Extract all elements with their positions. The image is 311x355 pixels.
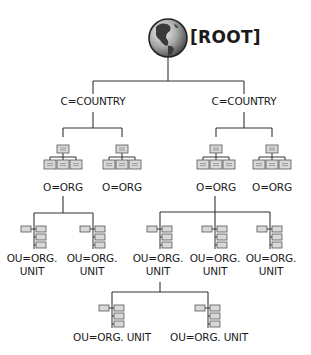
org-unit-label: OU=ORG. UNIT [246, 252, 296, 278]
tree-diagram [0, 0, 311, 355]
org-unit-icon [257, 226, 282, 249]
org-unit-label: OU=ORG. UNIT [133, 252, 183, 278]
country-label: C=COUNTRY [212, 95, 277, 108]
org-unit-label: OU=ORG. UNIT [7, 252, 57, 278]
org-label: O=ORG [252, 181, 292, 194]
globe-icon [149, 19, 187, 57]
org-unit-label: OU=ORG. UNIT [190, 252, 240, 278]
sub-org-unit-label: OU=ORG. UNIT [73, 331, 151, 344]
org-unit-icon [99, 305, 124, 328]
org-unit-icon [21, 226, 46, 249]
sub-org-unit-label: OU=ORG. UNIT [170, 331, 248, 344]
org-unit-icon [195, 305, 220, 328]
org-icon [44, 145, 82, 169]
org-label: O=ORG [196, 181, 236, 194]
root-label: [ROOT] [190, 27, 261, 47]
org-unit-label: OU=ORG. UNIT [67, 252, 117, 278]
org-label: O=ORG [43, 181, 83, 194]
org-unit-icon [80, 226, 105, 249]
org-unit-icon [147, 226, 172, 249]
org-icon [253, 145, 291, 169]
org-icon [103, 145, 141, 169]
org-unit-icon [202, 226, 227, 249]
org-label: O=ORG [102, 181, 142, 194]
country-label: C=COUNTRY [61, 95, 126, 108]
org-icon [197, 145, 235, 169]
